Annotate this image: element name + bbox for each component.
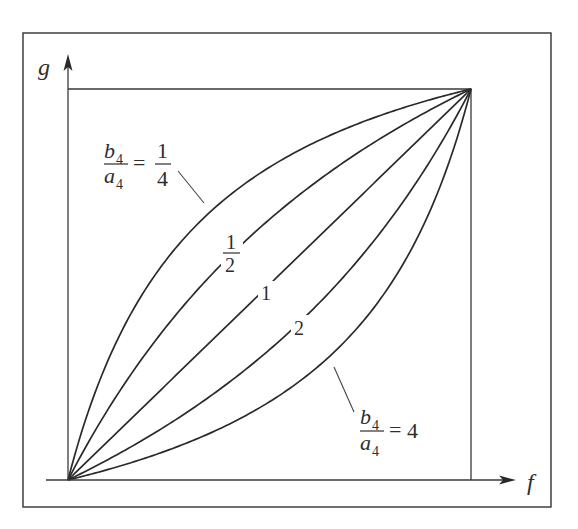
svg-text:4: 4 — [116, 152, 123, 167]
svg-text:=: = — [133, 150, 145, 175]
label-ratio-two: 2 — [294, 317, 304, 339]
label-ratio-four: b 4 a 4 = 4 — [360, 404, 418, 459]
svg-text:=: = — [389, 417, 401, 442]
label-ratio-one-quarter: b 4 a 4 = 1 4 — [104, 138, 171, 192]
svg-text:a: a — [104, 163, 115, 188]
svg-text:4: 4 — [157, 166, 168, 191]
curve-family-diagram: g f b 4 a 4 = 1 4 1 2 1 2 b 4 a 4 = 4 — [0, 0, 578, 529]
svg-text:b: b — [104, 138, 115, 163]
svg-text:1: 1 — [226, 231, 236, 253]
x-axis-label: f — [527, 469, 537, 495]
svg-text:1: 1 — [157, 138, 168, 163]
svg-text:a: a — [360, 430, 371, 455]
leader-line-one-quarter — [178, 171, 204, 203]
svg-text:4: 4 — [372, 444, 379, 459]
y-axis-label: g — [38, 54, 50, 80]
svg-text:4: 4 — [116, 177, 123, 192]
svg-text:b: b — [360, 404, 371, 429]
outer-frame — [23, 33, 551, 507]
leader-line-four — [334, 367, 354, 412]
label-ratio-one: 1 — [261, 282, 271, 304]
svg-text:4: 4 — [407, 418, 418, 443]
svg-text:2: 2 — [225, 254, 235, 276]
